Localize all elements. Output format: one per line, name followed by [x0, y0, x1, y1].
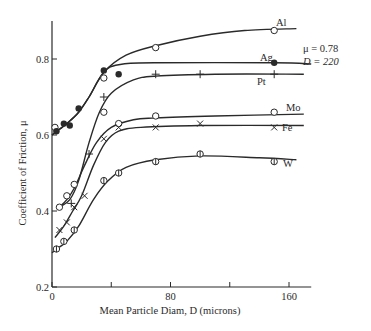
x-tick-label: 160 [281, 291, 297, 302]
y-tick-label: 0.4 [36, 206, 50, 217]
curve-pt [59, 74, 303, 207]
marker-ag [115, 71, 121, 77]
series-label-pt: Pt [257, 76, 266, 87]
marker-mo [56, 204, 62, 210]
marker-w [71, 227, 77, 233]
series-label-al: Al [276, 17, 287, 28]
curve-w [52, 156, 296, 253]
marker-mo [71, 181, 77, 187]
marker-mo [152, 113, 158, 119]
y-tick-label: 0.8 [36, 54, 49, 65]
series-labels: AlAgPtMoFeW [257, 17, 301, 169]
marker-al [271, 27, 277, 33]
marker-w [271, 158, 277, 164]
marker-mo [101, 109, 107, 115]
marker-fe [101, 136, 107, 142]
marker-pt [152, 70, 160, 78]
series-label-ag: Ag [260, 52, 274, 63]
marker-w [101, 177, 107, 183]
marker-fe [82, 193, 88, 199]
marker-w [115, 170, 121, 176]
x-tick-label: 80 [165, 291, 176, 302]
series-label-w: W [283, 158, 293, 169]
y-axis-label: Coefficient of Friction, μ [17, 120, 28, 226]
series-markers [52, 27, 278, 252]
y-tick-label: 0.6 [36, 130, 49, 141]
marker-pt [270, 70, 278, 78]
series-label-mo: Mo [286, 102, 301, 113]
marker-w [53, 246, 59, 252]
series-label-fe: Fe [282, 122, 293, 133]
marker-ag [53, 128, 59, 134]
marker-ag [67, 122, 73, 128]
annotation-d: D = 220 [302, 56, 339, 67]
marker-ag [75, 105, 81, 111]
friction-chart: 0801600.20.40.60.8 AlAgPtMoFeW μ = 0.78 … [0, 0, 371, 331]
marker-mo [271, 109, 277, 115]
marker-w [197, 151, 203, 157]
marker-ag [101, 67, 107, 73]
annotation-mu: μ = 0.78 [303, 43, 338, 54]
marker-pt [196, 70, 204, 78]
x-axis-label: Mean Particle Diam, D (microns) [100, 305, 241, 317]
marker-ag [61, 120, 67, 126]
marker-w [61, 238, 67, 244]
marker-al [152, 44, 158, 50]
marker-w [152, 158, 158, 164]
y-tick-label: 0.2 [36, 282, 49, 293]
curve-fe [55, 125, 304, 237]
marker-mo [64, 193, 70, 199]
marker-al [101, 75, 107, 81]
x-tick-label: 0 [49, 291, 54, 302]
marker-fe [153, 124, 159, 130]
